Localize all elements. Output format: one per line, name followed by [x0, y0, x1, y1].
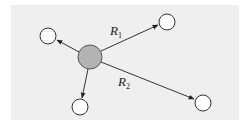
node-top-right: [159, 14, 175, 30]
node-bottom-right: [195, 95, 211, 111]
label-r2: R2: [117, 74, 130, 91]
node-center: [78, 45, 102, 69]
edge-to-top-left: [57, 40, 79, 52]
edge-to-bottom: [82, 69, 88, 98]
node-top-left: [40, 28, 56, 44]
label-r1: R1: [109, 23, 122, 40]
node-bottom: [72, 99, 88, 115]
edge-r2: [101, 62, 194, 99]
network-diagram: R1 R2: [0, 0, 252, 127]
